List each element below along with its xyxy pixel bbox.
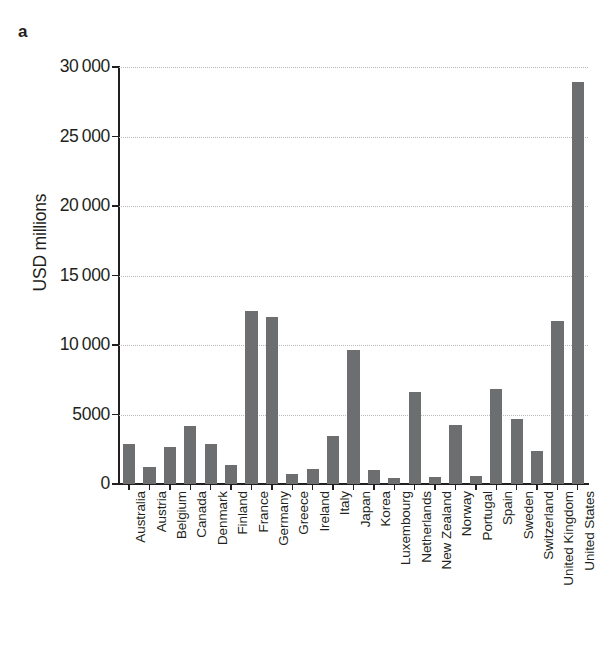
bar[interactable] [511,419,523,484]
x-axis-label: Germany [277,491,291,546]
panel-label: a [18,23,27,40]
bar[interactable] [388,478,400,484]
y-axis-tick [112,136,119,138]
plot-area: 0500010 00015 00020 00025 00030 000 [119,67,588,484]
x-axis-label-wrapper: New Zealand [440,491,441,492]
x-axis-tick [536,485,537,490]
x-axis-label: New Zealand [440,491,454,569]
x-axis-label-wrapper: Denmark [216,491,217,492]
x-axis-label-wrapper: Australia [134,491,135,492]
x-axis-label-wrapper: Belgium [175,491,176,492]
x-axis-tick [414,485,415,490]
x-axis-label-wrapper: France [257,491,258,492]
bar[interactable] [205,444,217,484]
y-axis-title: USD millions [30,143,51,343]
bar[interactable] [123,444,135,484]
y-axis-tick-label: 25 000 [60,128,110,146]
bar[interactable] [184,426,196,484]
y-axis-tick-label: 15 000 [60,267,110,285]
y-axis-tick [112,344,119,346]
bar[interactable] [164,447,176,484]
bar[interactable] [490,389,502,484]
y-axis-tick-label: 30 000 [60,58,110,76]
y-axis-tick [112,275,119,277]
bar[interactable] [531,451,543,484]
bar[interactable] [347,350,359,484]
bar[interactable] [245,311,257,484]
x-axis-label: Spain [501,491,515,525]
x-axis-label: Belgium [175,491,189,539]
bar[interactable] [449,425,461,484]
gridline [119,345,588,346]
x-axis-tick [292,485,293,490]
gridline [119,67,588,68]
bar[interactable] [409,392,421,484]
bar[interactable] [143,467,155,484]
x-axis-label-wrapper: Switzerland [542,491,543,492]
x-axis-label-wrapper: Germany [277,491,278,492]
y-axis-tick [112,205,119,207]
x-axis-label-wrapper: Canada [195,491,196,492]
y-axis-tick-label: 20 000 [60,197,110,215]
x-axis-tick [210,485,211,490]
x-axis-label-wrapper: Netherlands [420,491,421,492]
y-axis-tick-label: 0 [101,475,110,493]
x-axis-label: United States [583,491,597,571]
y-axis-tick [112,66,119,68]
x-axis-label-wrapper: Spain [501,491,502,492]
x-axis-tick [353,485,354,490]
x-axis-label-wrapper: Japan [359,491,360,492]
x-axis-label-wrapper: United Kingdom [562,491,563,492]
bar[interactable] [307,469,319,484]
x-axis-label: Sweden [522,491,536,539]
x-axis-label: Greece [297,491,311,535]
x-axis-label: Canada [195,491,209,538]
x-axis-tick [516,485,517,490]
x-axis-tick [577,485,578,490]
x-axis-tick [169,485,170,490]
x-axis-tick [271,485,272,490]
x-axis-tick [332,485,333,490]
bar[interactable] [266,317,278,484]
bar[interactable] [368,470,380,484]
x-axis-tick [312,485,313,490]
y-axis-tick [112,483,119,485]
gridline [119,206,588,207]
x-axis-tick [190,485,191,490]
x-axis-label: Japan [359,491,373,527]
x-axis-tick [475,485,476,490]
x-axis-label: Switzerland [542,491,556,560]
x-axis-tick [434,485,435,490]
x-axis-label: Norway [460,491,474,536]
x-axis-label-wrapper: United States [583,491,584,492]
x-axis-label-wrapper: Ireland [318,491,319,492]
bar[interactable] [286,474,298,484]
x-axis-tick [496,485,497,490]
bar[interactable] [225,465,237,484]
x-axis-label-wrapper: Luxembourg [399,491,400,492]
bar[interactable] [429,477,441,484]
x-axis-label-wrapper: Finland [236,491,237,492]
x-axis-label: Portugal [481,491,495,540]
gridline [119,276,588,277]
x-axis-tick [394,485,395,490]
x-axis-label-wrapper: Portugal [481,491,482,492]
x-axis-label: Italy [338,491,352,515]
x-axis-label: France [257,491,271,532]
x-axis-label: Ireland [318,491,332,532]
gridline [119,137,588,138]
bar[interactable] [572,82,584,484]
x-axis-label: Netherlands [420,491,434,563]
y-axis-tick [112,414,119,416]
x-axis-tick [557,485,558,490]
x-axis-label-wrapper: Norway [460,491,461,492]
bar[interactable] [470,476,482,484]
x-axis-tick [230,485,231,490]
bar-chart-figure: a USD millions 0500010 00015 00020 00025… [0,0,610,647]
bar[interactable] [327,436,339,484]
x-axis-tick [128,485,129,490]
bar[interactable] [551,321,563,484]
x-axis-tick [373,485,374,490]
y-axis-tick-label: 10 000 [60,336,110,354]
x-axis-tick [455,485,456,490]
